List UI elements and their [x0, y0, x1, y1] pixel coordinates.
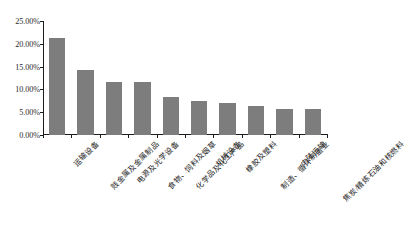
y-tick-label: 25.00% — [15, 17, 40, 26]
bar-slot — [157, 21, 185, 135]
bar-slot — [43, 21, 71, 135]
bar[interactable] — [134, 82, 150, 135]
bar-slot — [270, 21, 298, 135]
bar[interactable] — [191, 101, 207, 135]
y-tick-label: 10.00% — [15, 85, 40, 94]
bar[interactable] — [163, 97, 179, 135]
y-tick-label: 20.00% — [15, 39, 40, 48]
y-tick-label: 15.00% — [15, 62, 40, 71]
bar[interactable] — [106, 82, 122, 135]
bar-slot — [213, 21, 241, 135]
bar[interactable] — [219, 103, 235, 135]
y-tick-label: 0.00% — [19, 131, 40, 140]
x-tick-mark — [327, 134, 328, 138]
bar-slot — [100, 21, 128, 135]
bar[interactable] — [276, 109, 292, 135]
x-tick-label: 焦炭/精炼石油和核燃料 — [340, 138, 406, 204]
y-tick-label: 5.00% — [19, 108, 40, 117]
bar-slot — [242, 21, 270, 135]
bar-series — [43, 21, 327, 135]
bar[interactable] — [49, 38, 65, 135]
bar-slot — [71, 21, 99, 135]
plot-area — [43, 21, 327, 135]
bar[interactable] — [248, 106, 264, 135]
x-tick-label: 运输设备 — [70, 138, 100, 168]
bar[interactable] — [305, 109, 321, 135]
x-axis-labels: 运输设备贱金属及金属制品电源及光学设备食物、饲料及烟草化学品及化工产品机械设备橡… — [43, 136, 327, 236]
bar-slot — [185, 21, 213, 135]
x-tick-label: 橡胶及塑料 — [243, 138, 279, 174]
bar-slot — [128, 21, 156, 135]
y-axis: 25.00%20.00%15.00%10.00%5.00%0.00% — [0, 0, 40, 236]
bar-slot — [299, 21, 327, 135]
bar[interactable] — [77, 70, 93, 135]
